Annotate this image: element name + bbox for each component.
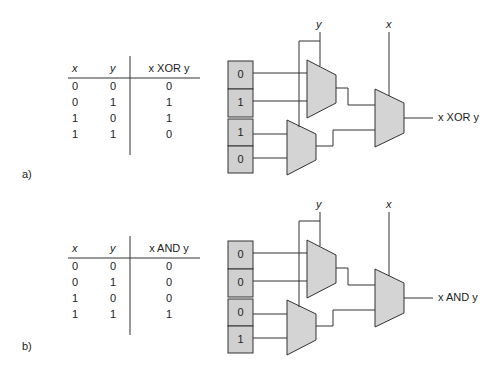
- cell-x: 1: [72, 292, 78, 304]
- cell-result: 0: [134, 80, 204, 92]
- header-result: x XOR y: [134, 62, 204, 74]
- input-top-1: 1: [228, 96, 253, 108]
- table-header: x y x AND y: [68, 242, 203, 257]
- table-row: 1 1 1: [68, 308, 203, 323]
- table-row: 0 0 0: [68, 260, 203, 275]
- output-label: x XOR y: [438, 111, 479, 123]
- panel-a-xor: x y x XOR y 0 0 0 0 1 1 1 0 1 1 1 0 0 1 …: [0, 0, 498, 185]
- cell-result: 0: [134, 128, 204, 140]
- table-row: 1 1 0: [68, 128, 203, 143]
- cell-x: 1: [72, 308, 78, 320]
- output-label: x AND y: [438, 291, 478, 303]
- header-x: x: [72, 62, 78, 74]
- input-bottom-1: 1: [228, 333, 253, 345]
- cell-x: 1: [72, 128, 78, 140]
- cell-y: 0: [110, 292, 116, 304]
- table-header: x y x XOR y: [68, 62, 203, 77]
- table-row: 0 1 1: [68, 96, 203, 111]
- header-y: y: [110, 62, 116, 74]
- select-y-label: y: [316, 198, 322, 210]
- input-top-1: 0: [228, 276, 253, 288]
- cell-y: 1: [110, 308, 116, 320]
- input-bottom-0: 1: [228, 126, 253, 138]
- cell-result: 0: [134, 260, 204, 272]
- input-bottom-1: 0: [228, 153, 253, 165]
- cell-x: 0: [72, 276, 78, 288]
- cell-x: 0: [72, 80, 78, 92]
- select-x-label: x: [386, 18, 392, 30]
- cell-y: 0: [110, 112, 116, 124]
- cell-result: 1: [134, 96, 204, 108]
- cell-result: 1: [134, 308, 204, 320]
- cell-x: 0: [72, 96, 78, 108]
- header-x: x: [72, 242, 78, 254]
- table-row: 1 0 1: [68, 112, 203, 127]
- cell-result: 0: [134, 276, 204, 288]
- select-x-label: x: [386, 198, 392, 210]
- cell-y: 0: [110, 80, 116, 92]
- panel-label-a: a): [22, 168, 32, 180]
- table-row: 0 1 0: [68, 276, 203, 291]
- cell-result: 1: [134, 112, 204, 124]
- input-top-0: 0: [228, 68, 253, 80]
- header-result: x AND y: [134, 242, 204, 254]
- panel-label-b: b): [22, 340, 32, 352]
- cell-y: 1: [110, 96, 116, 108]
- input-top-0: 0: [228, 248, 253, 260]
- input-bottom-0: 0: [228, 306, 253, 318]
- table-row: 1 0 0: [68, 292, 203, 307]
- cell-y: 1: [110, 276, 116, 288]
- cell-y: 1: [110, 128, 116, 140]
- cell-result: 0: [134, 292, 204, 304]
- cell-y: 0: [110, 260, 116, 272]
- table-row: 0 0 0: [68, 80, 203, 95]
- panel-b-and: x y x AND y 0 0 0 0 1 0 1 0 0 1 1 1 0 0 …: [0, 180, 498, 365]
- cell-x: 0: [72, 260, 78, 272]
- select-y-label: y: [316, 18, 322, 30]
- cell-x: 1: [72, 112, 78, 124]
- header-y: y: [110, 242, 116, 254]
